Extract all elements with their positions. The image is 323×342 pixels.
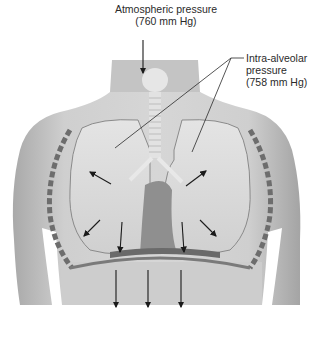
intra-alveolar-subtitle: pressure (246, 64, 322, 76)
atmospheric-pressure-title: Atmospheric pressure (110, 3, 222, 15)
left-lung (164, 120, 250, 254)
intra-alveolar-value: (758 mm Hg) (246, 76, 322, 88)
intra-alveolar-pressure-label: Intra-alveolar pressure (758 mm Hg) (246, 52, 322, 88)
inspiration-diagram: Atmospheric pressure (760 mm Hg) Intra-a… (0, 0, 323, 342)
right-lung (70, 120, 150, 254)
intra-alveolar-title: Intra-alveolar (246, 52, 322, 64)
atmospheric-pressure-label: Atmospheric pressure (760 mm Hg) (110, 3, 222, 27)
atmospheric-pressure-value: (760 mm Hg) (110, 15, 222, 27)
heart (140, 181, 176, 254)
